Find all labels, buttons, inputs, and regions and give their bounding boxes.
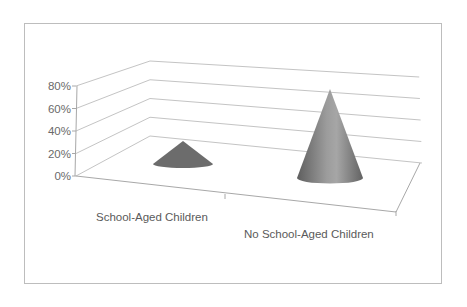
floor-right-edge (396, 163, 420, 212)
cone-chart: 0%20%40%60%80% School-Aged ChildrenNo Sc… (0, 0, 467, 307)
cone-2 (297, 89, 363, 184)
cone-1 (153, 141, 213, 168)
floor (76, 163, 420, 216)
category-labels: School-Aged ChildrenNo School-Aged Child… (96, 211, 374, 240)
gridline (76, 61, 419, 86)
y-tick-label: 40% (48, 125, 71, 137)
category-label: School-Aged Children (96, 211, 208, 223)
value-axis (72, 86, 77, 176)
y-tick-label: 60% (48, 103, 71, 115)
y-tick-label: 20% (48, 148, 71, 160)
cones (153, 89, 363, 184)
y-tick-label: 80% (48, 80, 71, 92)
gridline (76, 136, 422, 176)
y-tick-label: 0% (54, 170, 71, 182)
gridlines (76, 61, 422, 176)
y-tick-labels: 0%20%40%60%80% (48, 80, 71, 182)
gridline (76, 80, 420, 109)
category-label: No School-Aged Children (244, 228, 374, 240)
